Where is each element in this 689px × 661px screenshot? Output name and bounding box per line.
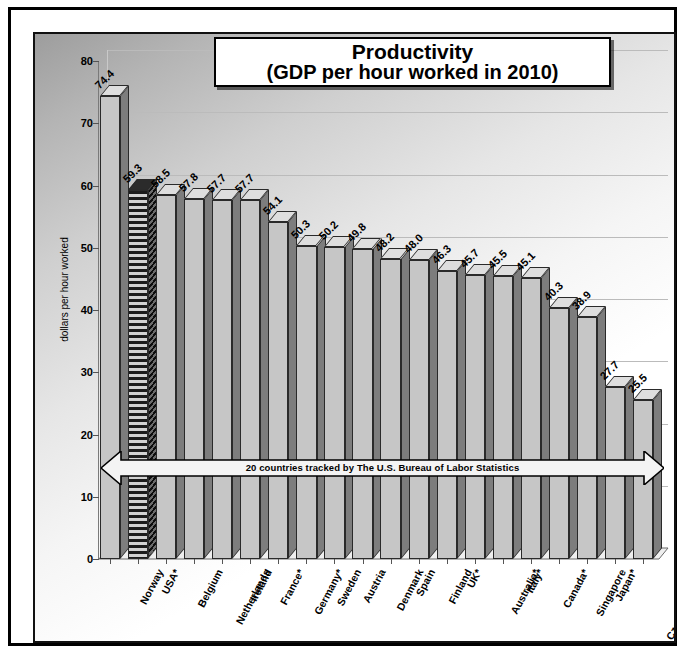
x-axis-tick-mark — [475, 559, 476, 564]
bar-front-face — [409, 260, 429, 559]
x-axis-tick-mark — [391, 559, 392, 564]
bar — [240, 189, 260, 559]
x-axis-tick-mark — [419, 559, 420, 564]
x-axis-tick-mark — [559, 559, 560, 564]
x-axis-tick-mark — [643, 559, 644, 564]
bar — [521, 267, 541, 559]
plot-area: dollars per hour worked 0102030405060708… — [35, 34, 676, 643]
bar — [409, 249, 429, 559]
bar-front-face — [324, 247, 344, 559]
bar — [465, 264, 485, 559]
bar-front-face — [493, 276, 513, 559]
bar — [352, 238, 372, 559]
chart-plot-frame: Productivity (GDP per hour worked in 201… — [33, 32, 676, 643]
bar — [100, 85, 120, 559]
bar-front-face — [240, 200, 260, 559]
bar-front-face — [128, 190, 148, 559]
bar — [128, 179, 148, 559]
x-axis-tick-mark — [531, 559, 532, 564]
chart-subtitle: (GDP per hour worked in 2010) — [267, 62, 559, 83]
bar — [296, 235, 316, 559]
bar-front-face — [465, 275, 485, 559]
bar-front-face — [268, 222, 288, 559]
x-axis-tick-mark — [615, 559, 616, 564]
bar — [493, 265, 513, 559]
annotation-text: 20 countries tracked by The U.S. Bureau … — [101, 451, 664, 485]
bar — [437, 260, 457, 559]
bar-front-face — [296, 246, 316, 559]
x-axis-tick-mark — [306, 559, 307, 564]
chart-title-box: Productivity (GDP per hour worked in 201… — [214, 37, 611, 87]
x-axis-tick-mark — [278, 559, 279, 564]
bar-front-face — [352, 249, 372, 559]
bar-front-face — [521, 278, 541, 559]
bar-front-face — [156, 195, 176, 559]
outer-border: Productivity (GDP per hour worked in 201… — [8, 7, 677, 646]
x-axis-tick-mark — [222, 559, 223, 564]
annotation-banner: 20 countries tracked by The U.S. Bureau … — [101, 451, 664, 485]
chart-screenshot: Productivity (GDP per hour worked in 201… — [0, 0, 689, 661]
x-axis-tick-mark — [194, 559, 195, 564]
page-title: Productivity — [352, 41, 473, 62]
x-axis-tick-mark — [363, 559, 364, 564]
bar — [184, 188, 204, 559]
bar — [549, 297, 569, 559]
bar-front-face — [212, 200, 232, 559]
bar-front-face — [577, 317, 597, 559]
bar — [212, 189, 232, 559]
x-axis-tick-mark — [138, 559, 139, 564]
bar-front-face — [437, 271, 457, 559]
bar — [324, 236, 344, 559]
bar-front-face — [380, 259, 400, 559]
bar — [268, 211, 288, 559]
bar — [577, 306, 597, 559]
bar-front-face — [184, 199, 204, 559]
x-axis-tick-mark — [503, 559, 504, 564]
bar — [380, 248, 400, 559]
bar-front-face — [549, 308, 569, 559]
bar-front-face — [100, 96, 120, 559]
x-axis-tick-mark — [587, 559, 588, 564]
x-axis-tick-mark — [447, 559, 448, 564]
x-axis-tick-mark — [166, 559, 167, 564]
x-axis-tick-mark — [110, 559, 111, 564]
x-axis-tick-mark — [250, 559, 251, 564]
x-axis-tick-mark — [334, 559, 335, 564]
bar — [156, 184, 176, 559]
